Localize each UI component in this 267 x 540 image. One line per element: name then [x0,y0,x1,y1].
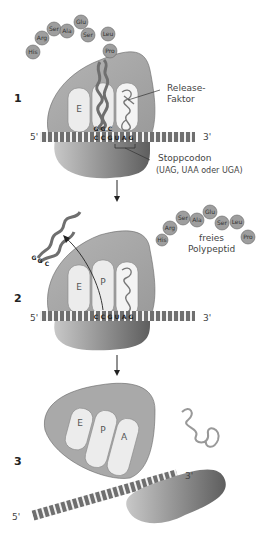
step-1-five-prime: 5' [30,132,38,143]
step-1-number: 1 [14,92,22,105]
step-3-group: E P A [32,383,226,523]
svg-text:Leu: Leu [232,218,243,225]
svg-text:Arg: Arg [165,224,175,232]
svg-text:U: U [115,134,120,141]
svg-text:Ser: Ser [49,25,60,32]
svg-text:P: P [100,277,106,287]
svg-text:G: G [108,313,113,320]
svg-text:E: E [76,104,82,114]
svg-text:A: A [122,134,127,141]
svg-text:Glu: Glu [205,208,215,215]
svg-text:E: E [76,282,82,292]
step-2-five-prime: 5' [30,313,38,324]
release-factor-label: Release- Faktor [167,83,205,105]
svg-text:Glu: Glu [76,18,86,25]
svg-text:Ala: Ala [62,27,72,34]
svg-text:G: G [94,125,99,132]
step-2-number: 2 [14,292,22,305]
svg-text:G: G [38,257,43,264]
svg-text:G: G [129,134,134,141]
svg-text:G: G [32,254,37,261]
svg-text:C: C [45,260,50,267]
svg-text:A: A [121,432,128,442]
step-1-three-prime: 3' [203,132,211,143]
svg-text:C: C [101,134,106,141]
svg-text:G: G [129,313,134,320]
svg-text:C: C [101,313,106,320]
down-arrow-icon [114,196,120,202]
svg-text:A: A [122,313,127,320]
svg-text:C: C [94,134,99,141]
svg-text:U: U [115,313,120,320]
stop-codon-variants: (UAG, UAA oder UGA) [156,165,243,176]
svg-text:Ser: Ser [217,219,228,226]
free-polypeptide-label: freies Polypeptid [188,233,235,255]
small-subunit [54,138,150,178]
step-3-five-prime: 5' [12,512,20,523]
svg-text:Arg: Arg [37,34,47,42]
translation-termination-diagram: E G G C C C G U A G HisArg SerAla GluSer… [0,0,267,540]
step-2-three-prime: 3' [203,313,211,324]
svg-text:E: E [77,418,83,428]
svg-text:G: G [101,125,106,132]
svg-text:C: C [108,125,113,132]
svg-text:G: G [108,134,113,141]
step-3-number: 3 [14,455,22,468]
svg-text:Pro: Pro [105,47,115,54]
step-3-three-prime: 3' [185,471,193,482]
stop-codon-label: Stoppcodon [158,153,212,164]
svg-text:His: His [157,236,166,243]
svg-text:Ser: Ser [83,31,94,38]
svg-text:Pro: Pro [243,233,253,240]
step-2-group: E P CC GU AG GGC HisArg SerAla GluSer Le… [32,205,255,350]
svg-text:P: P [100,425,106,435]
svg-text:Ser: Ser [178,214,189,221]
svg-text:Ala: Ala [192,216,202,223]
svg-text:C: C [94,313,99,320]
svg-text:His: His [28,48,37,55]
svg-text:Leu: Leu [103,30,114,37]
